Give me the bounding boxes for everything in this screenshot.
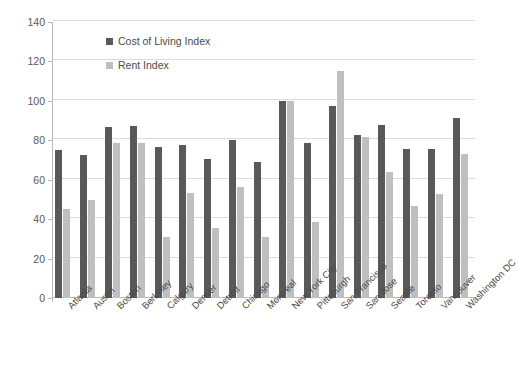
- x-axis-tick-mark: [176, 298, 177, 302]
- x-axis-tick-mark: [475, 298, 476, 302]
- bar-rent: [113, 143, 120, 298]
- bar-rent: [138, 143, 145, 298]
- legend-swatch-icon-rent: [106, 62, 113, 69]
- y-axis-tick-label: 40: [5, 214, 45, 225]
- bar-rent: [337, 71, 344, 298]
- bar-group: [375, 22, 400, 298]
- bar-group: [450, 22, 475, 298]
- legend-swatch-icon-cost-of-living: [106, 38, 113, 45]
- bar-cost-of-living: [130, 126, 137, 299]
- bar-rent: [237, 187, 244, 298]
- x-axis-tick-mark: [152, 298, 153, 302]
- x-axis-tick-mark: [450, 298, 451, 302]
- chart-legend: Cost of Living Index Rent Index: [106, 33, 210, 81]
- x-axis-tick-mark: [276, 298, 277, 302]
- bar-rent: [411, 206, 418, 298]
- bar-group: [276, 22, 301, 298]
- bar-group: [400, 22, 425, 298]
- bar-cost-of-living: [229, 140, 236, 298]
- bar-cost-of-living: [279, 101, 286, 298]
- bar-cost-of-living: [304, 143, 311, 298]
- y-axis-tick-label: 60: [5, 175, 45, 186]
- bar-cost-of-living: [403, 149, 410, 298]
- bar-cost-of-living: [453, 118, 460, 298]
- y-axis-tick-label: 140: [5, 17, 45, 28]
- bar-group: [351, 22, 376, 298]
- bar-group: [251, 22, 276, 298]
- x-axis-tick-mark: [301, 298, 302, 302]
- legend-item-cost-of-living: Cost of Living Index: [106, 33, 210, 49]
- y-axis-tick-label: 0: [5, 293, 45, 304]
- bar-cost-of-living: [80, 155, 87, 298]
- x-axis-tick-mark: [77, 298, 78, 302]
- x-axis-tick-mark: [102, 298, 103, 302]
- x-axis-tick-mark: [400, 298, 401, 302]
- x-axis-tick-mark: [251, 298, 252, 302]
- bar-cost-of-living: [204, 159, 211, 298]
- bar-group: [326, 22, 351, 298]
- bar-cost-of-living: [105, 127, 112, 299]
- bar-rent: [63, 209, 70, 298]
- bar-group: [301, 22, 326, 298]
- bar-cost-of-living: [55, 150, 62, 298]
- x-axis-tick-mark: [201, 298, 202, 302]
- bar-cost-of-living: [155, 147, 162, 298]
- y-axis-tick-label: 100: [5, 96, 45, 107]
- x-axis-tick-mark: [425, 298, 426, 302]
- bar-group: [226, 22, 251, 298]
- bar-cost-of-living: [254, 162, 261, 298]
- legend-item-rent: Rent Index: [106, 57, 210, 73]
- bar-rent: [88, 200, 95, 298]
- x-axis-tick-mark: [52, 298, 53, 302]
- y-axis-tick-label: 120: [5, 56, 45, 67]
- legend-label-rent: Rent Index: [118, 60, 169, 71]
- y-axis-tick-label: 80: [5, 135, 45, 146]
- x-axis-tick-mark: [127, 298, 128, 302]
- bar-cost-of-living: [179, 145, 186, 298]
- bar-cost-of-living: [354, 135, 361, 298]
- bar-group: [425, 22, 450, 298]
- bar-group: [77, 22, 102, 298]
- x-axis-tick-mark: [226, 298, 227, 302]
- x-axis-tick-mark: [326, 298, 327, 302]
- gridline: [53, 20, 475, 21]
- bar-group: [52, 22, 77, 298]
- legend-label-cost-of-living: Cost of Living Index: [118, 36, 210, 47]
- x-axis-tick-mark: [351, 298, 352, 302]
- bar-rent: [287, 101, 294, 298]
- x-axis-tick-mark: [375, 298, 376, 302]
- bar-cost-of-living: [428, 149, 435, 298]
- y-axis-tick-label: 20: [5, 254, 45, 265]
